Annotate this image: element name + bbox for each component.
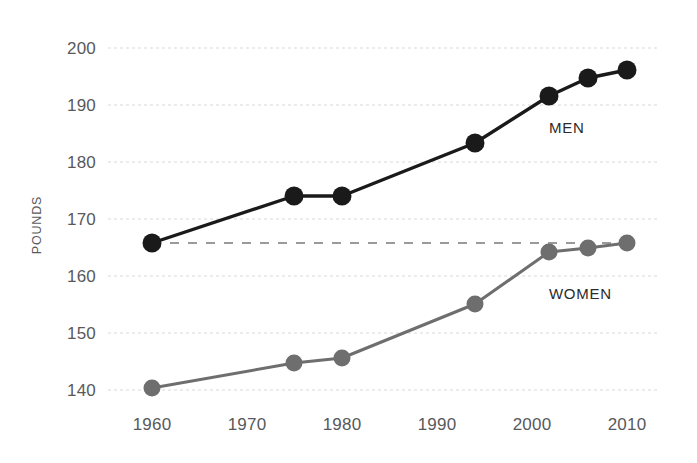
women-point-2010 — [619, 235, 636, 252]
y-axis-title: POUNDS — [30, 196, 44, 254]
x-tick-label-1970: 1970 — [228, 415, 267, 434]
men-point-1960 — [143, 234, 162, 253]
y-tick-label-180: 180 — [67, 153, 96, 172]
series-label-women: WOMEN — [549, 285, 612, 302]
x-tick-label-2010: 2010 — [608, 415, 647, 434]
chart-canvas: 200 190 180 170 160 150 140 1960 1970 19… — [0, 0, 697, 463]
women-point-1994 — [467, 296, 484, 313]
men-point-2010 — [618, 61, 637, 80]
men-point-2002 — [540, 87, 559, 106]
women-point-1980 — [334, 350, 351, 367]
men-point-1994 — [466, 134, 485, 153]
x-axis-tick-labels: 1960 1970 1980 1990 2000 2010 — [133, 415, 647, 434]
series-label-men: MEN — [549, 119, 584, 136]
x-tick-label-1980: 1980 — [323, 415, 362, 434]
women-line — [152, 243, 627, 388]
series-women — [144, 235, 636, 397]
y-tick-label-160: 160 — [67, 267, 96, 286]
women-point-1960 — [144, 380, 161, 397]
men-point-2006 — [579, 69, 598, 88]
x-tick-label-2000: 2000 — [513, 415, 552, 434]
x-tick-label-1960: 1960 — [133, 415, 172, 434]
y-tick-label-150: 150 — [67, 324, 96, 343]
y-tick-label-200: 200 — [67, 39, 96, 58]
series-men — [143, 61, 637, 253]
y-axis-tick-labels: 200 190 180 170 160 150 140 — [67, 39, 96, 400]
x-tick-label-1990: 1990 — [418, 415, 457, 434]
weight-trend-chart: 200 190 180 170 160 150 140 1960 1970 19… — [0, 0, 697, 463]
women-point-2006 — [580, 240, 597, 257]
y-tick-label-140: 140 — [67, 381, 96, 400]
women-point-1975 — [286, 355, 303, 372]
y-tick-label-170: 170 — [67, 210, 96, 229]
men-point-1980 — [333, 187, 352, 206]
men-point-1975 — [285, 187, 304, 206]
y-gridlines — [108, 48, 660, 390]
y-tick-label-190: 190 — [67, 96, 96, 115]
women-point-2002 — [541, 244, 558, 261]
